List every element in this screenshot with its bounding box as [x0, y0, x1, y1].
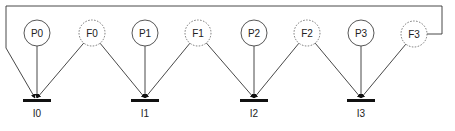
- node-label: P1: [139, 28, 152, 39]
- edge-F3-I3: [361, 44, 406, 98]
- sink-label: I3: [357, 108, 366, 119]
- sink-label: I2: [250, 108, 259, 119]
- sink-bar: [131, 99, 159, 102]
- node-label: P2: [248, 28, 261, 39]
- sink-bar: [23, 99, 51, 102]
- sink-bar: [240, 99, 268, 102]
- node-label: F2: [301, 28, 313, 39]
- edges: [6, 6, 442, 98]
- node-P3: P3: [348, 20, 374, 46]
- node-label: P0: [31, 28, 44, 39]
- node-label: F0: [86, 28, 98, 39]
- sink-bar: [347, 99, 375, 102]
- node-label: P3: [355, 28, 368, 39]
- node-F2: F2: [294, 20, 320, 46]
- edge-F2-I2: [254, 43, 299, 98]
- diagram-canvas: I0I1I2I3 P0F0P1F1P2F2P3F3: [0, 0, 455, 131]
- edge-F0-I0: [37, 43, 84, 98]
- edge-F2-I3: [315, 43, 361, 98]
- sink-I2: I2: [240, 99, 268, 119]
- node-P2: P2: [241, 20, 267, 46]
- sinks: I0I1I2I3: [23, 99, 375, 119]
- node-F1: F1: [185, 20, 211, 46]
- sink-label: I1: [141, 108, 150, 119]
- node-label: F1: [192, 28, 204, 39]
- sink-I3: I3: [347, 99, 375, 119]
- edge-F1-I1: [145, 43, 190, 98]
- sink-I0: I0: [23, 99, 51, 119]
- node-P1: P1: [132, 20, 158, 46]
- edge-F1-I2: [206, 43, 254, 98]
- sink-I1: I1: [131, 99, 159, 119]
- node-P0: P0: [24, 20, 50, 46]
- nodes: P0F0P1F1P2F2P3F3: [24, 20, 427, 47]
- edge-wrap-around: [6, 6, 442, 98]
- sink-label: I0: [33, 108, 42, 119]
- node-F0: F0: [79, 20, 105, 46]
- node-label: F3: [408, 29, 420, 40]
- edge-F0-I1: [100, 43, 145, 98]
- node-F3: F3: [401, 21, 427, 47]
